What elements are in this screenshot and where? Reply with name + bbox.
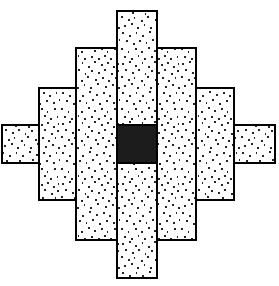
figure-canvas: Nested stippled rectangles with black ce… [0,0,279,286]
center-black-square [117,125,157,163]
nested-rectangles-diagram [0,0,279,286]
